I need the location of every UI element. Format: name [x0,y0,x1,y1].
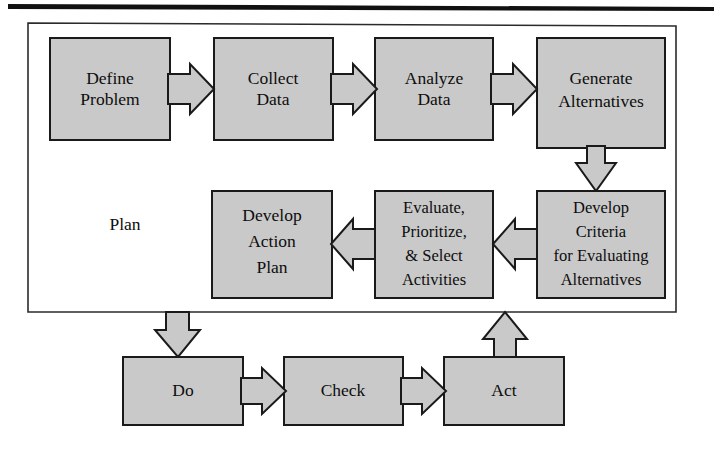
label-collect-data-line2: Data [256,89,289,109]
flowchart-canvas: Plan Define Problem Collect Data Analyze… [0,0,716,451]
plan-container-label: Plan [109,214,140,234]
label-develop-action-plan-line3: Plan [256,257,287,277]
connector-generate-to-criteria [576,146,616,191]
label-develop-criteria-line3: for Evaluating [554,246,649,265]
label-analyze-data-line1: Analyze [405,68,464,88]
connector-do-to-check [241,368,286,414]
connector-act-to-plan [483,312,527,357]
connector-collect-to-analyze [331,64,377,114]
label-define-problem-line1: Define [86,68,134,88]
connector-plan-to-do [155,312,200,357]
label-develop-action-plan-line1: Develop [242,205,302,225]
label-evaluate-line1: Evaluate, [403,198,465,217]
page-top-rule [8,4,714,11]
label-collect-data-line1: Collect [248,68,299,88]
connector-define-to-collect [168,64,214,114]
label-define-problem-line2: Problem [80,89,140,109]
connector-criteria-to-evaluate [493,219,537,269]
label-develop-action-plan-line2: Action [248,231,296,251]
flowchart-diagram: Plan Define Problem Collect Data Analyze… [0,0,716,451]
label-evaluate-line4: Activities [402,270,466,289]
label-do: Do [172,380,194,400]
label-check: Check [321,380,366,400]
label-develop-criteria-line2: Criteria [576,222,627,241]
connector-analyze-to-generate [491,64,537,114]
label-generate-alternatives-line2: Alternatives [558,91,644,111]
connector-check-to-act [401,368,446,414]
label-develop-criteria-line4: Alternatives [561,270,642,289]
connector-evaluate-to-action-plan [331,219,375,269]
label-act: Act [491,380,516,400]
label-analyze-data-line2: Data [417,89,450,109]
label-evaluate-line2: Prioritize, [401,222,467,241]
label-develop-criteria-line1: Develop [573,198,629,217]
label-evaluate-line3: & Select [405,246,463,265]
label-generate-alternatives-line1: Generate [569,68,632,88]
